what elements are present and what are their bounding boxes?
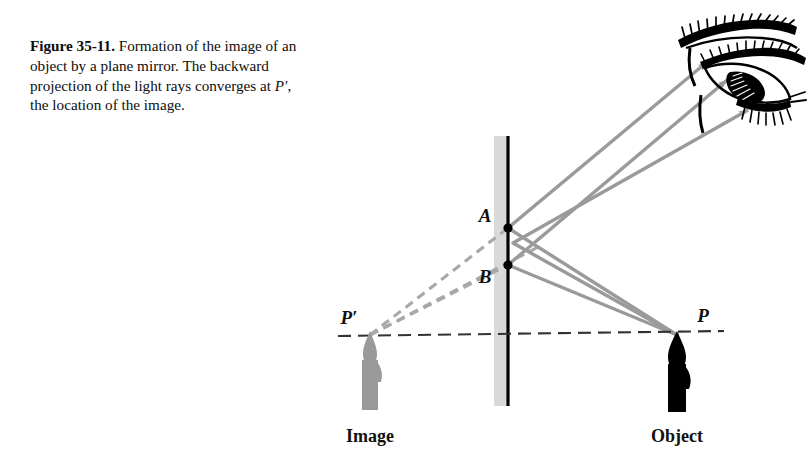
incident-ray-p-to-b bbox=[508, 265, 677, 335]
reflected-rays bbox=[508, 62, 748, 265]
incident-ray-p-to-c bbox=[513, 243, 677, 335]
optics-diagram: A B P′ P Image Object bbox=[0, 0, 809, 453]
label-point-a: A bbox=[478, 205, 492, 226]
image-candle-body bbox=[362, 360, 378, 410]
object-candle bbox=[668, 331, 691, 412]
mirror-point-b-dot bbox=[503, 260, 512, 269]
reflected-ray-from-b bbox=[508, 80, 727, 265]
label-object: Object bbox=[651, 426, 703, 446]
eye-face-contour-upper bbox=[689, 48, 695, 86]
reflected-ray-from-a bbox=[508, 62, 707, 228]
object-candle-body bbox=[668, 364, 686, 412]
optical-axis-dashed-line bbox=[338, 331, 724, 336]
image-candle bbox=[362, 331, 382, 410]
label-image: Image bbox=[346, 426, 394, 446]
eye-outer-canthus bbox=[790, 92, 806, 102]
mirror-point-a-dot bbox=[503, 223, 512, 232]
label-point-p: P bbox=[696, 305, 709, 326]
label-point-p-prime: P′ bbox=[340, 307, 358, 328]
label-point-b: B bbox=[478, 266, 492, 287]
figure-35-11: Figure 35-11. Formation of the image of … bbox=[0, 0, 809, 453]
reflected-ray-from-c bbox=[513, 110, 748, 243]
